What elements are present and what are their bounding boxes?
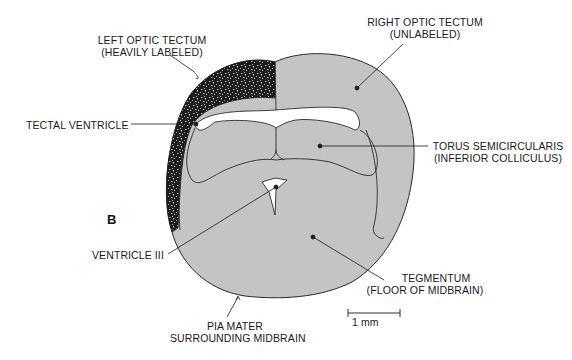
label-pia-mater: PIA MATER SURROUNDING MIDBRAIN — [170, 320, 300, 344]
label-ventricle-iii: VENTRICLE III — [92, 249, 164, 261]
label-line: (UNLABELED) — [360, 28, 490, 40]
label-line: (FLOOR OF MIDBRAIN) — [360, 284, 490, 296]
label-line: RIGHT OPTIC TECTUM — [360, 16, 490, 28]
label-tectal-ventricle: TECTAL VENTRICLE — [26, 119, 129, 131]
label-line: VENTRICLE III — [92, 249, 164, 261]
label-line: (INFERIOR COLLICULUS) — [428, 152, 568, 164]
panel-letter: B — [107, 212, 116, 227]
label-left-optic-tectum: LEFT OPTIC TECTUM (HEAVILY LABELED) — [82, 34, 222, 58]
label-line: LEFT OPTIC TECTUM — [82, 34, 222, 46]
label-torus-semicircularis: TORUS SEMICIRCULARIS (INFERIOR COLLICULU… — [428, 140, 568, 164]
label-line: SURROUNDING MIDBRAIN — [170, 332, 300, 344]
scale-bar-label: 1 mm — [352, 316, 379, 328]
label-line: TORUS SEMICIRCULARIS — [428, 140, 568, 152]
label-line: PIA MATER — [170, 320, 300, 332]
label-line: TECTAL VENTRICLE — [26, 119, 129, 131]
label-line: (HEAVILY LABELED) — [82, 46, 222, 58]
midbrain-cross-section-figure: LEFT OPTIC TECTUM (HEAVILY LABELED) RIGH… — [0, 0, 572, 360]
label-line: TEGMENTUM — [360, 272, 490, 284]
label-right-optic-tectum: RIGHT OPTIC TECTUM (UNLABELED) — [360, 16, 490, 40]
label-tegmentum: TEGMENTUM (FLOOR OF MIDBRAIN) — [360, 272, 490, 296]
